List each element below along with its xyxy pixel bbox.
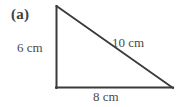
- side-label-base-leg: 8 cm: [93, 90, 119, 103]
- part-label: (a): [11, 7, 29, 22]
- side-label-hypotenuse: 10 cm: [112, 36, 144, 49]
- figure-container: (a) 6 cm 10 cm 8 cm: [0, 0, 179, 107]
- side-label-vertical-leg: 6 cm: [17, 41, 43, 54]
